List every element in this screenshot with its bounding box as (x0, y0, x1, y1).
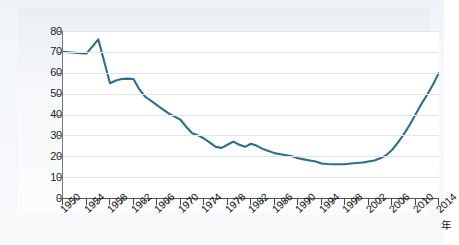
gridline (63, 73, 439, 74)
plot-area (62, 31, 439, 199)
y-tick-label: 20 (22, 151, 62, 162)
y-tick-label: 80 (22, 26, 62, 37)
y-tick-label: 10 (22, 172, 62, 183)
gridline (63, 135, 439, 136)
y-tick-label: 60 (22, 67, 62, 78)
y-axis: 01020304050607080 (18, 8, 62, 218)
y-tick-label: 0 (22, 193, 62, 204)
gridline (63, 52, 439, 53)
chart-card: 01020304050607080 1950195419581962196619… (18, 8, 430, 214)
gridline (63, 115, 439, 116)
x-axis-unit-label: 年 (441, 220, 451, 231)
gridline (63, 94, 439, 95)
gridline (63, 156, 439, 157)
gridline (63, 31, 439, 32)
y-tick-label: 70 (22, 46, 62, 57)
gridline (63, 177, 439, 178)
y-tick-label: 30 (22, 130, 62, 141)
series-polyline (63, 39, 439, 164)
y-tick-label: 50 (22, 88, 62, 99)
y-tick-label: 40 (22, 109, 62, 120)
